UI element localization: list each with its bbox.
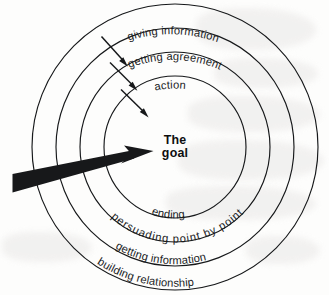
concentric-diagram: giving information getting agreement act… <box>0 0 329 295</box>
arrow-into-giving-information <box>102 37 128 67</box>
label-action: action <box>153 79 186 93</box>
label-action-text: action <box>153 79 186 93</box>
label-ending-text: ending <box>151 205 186 221</box>
arrow-into-action <box>121 90 149 118</box>
goal-label-line1: The <box>164 133 187 147</box>
diagram-canvas: giving information getting agreement act… <box>0 0 329 295</box>
label-getting-agreement: getting agreement <box>126 50 225 72</box>
label-giving-information: giving information <box>126 24 221 44</box>
label-giving-information-text: giving information <box>126 24 221 44</box>
label-getting-agreement-text: getting agreement <box>126 50 225 72</box>
goal-label-line2: goal <box>162 146 188 160</box>
label-ending: ending <box>151 205 186 221</box>
